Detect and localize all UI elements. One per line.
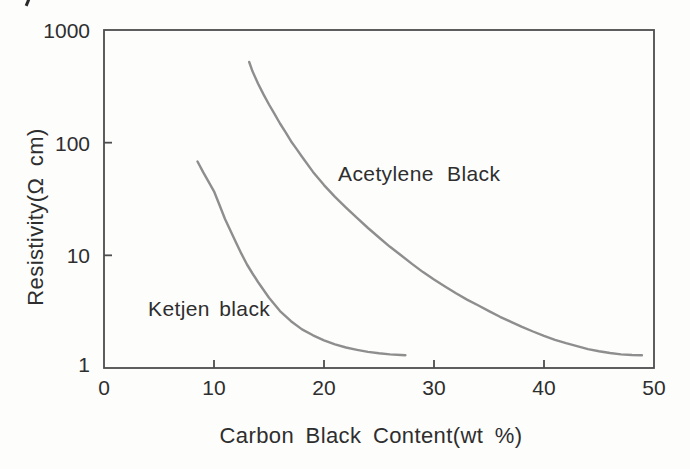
x-tick-label: 0 [98, 377, 110, 398]
x-tick-label: 40 [532, 377, 555, 398]
x-tick-label: 30 [422, 377, 445, 398]
figure: Resistivity(Ω cm) Carbon Black Content(w… [0, 0, 690, 469]
ketjen-black-curve [198, 162, 406, 356]
x-tick-label: 10 [202, 377, 225, 398]
x-tick-label: 50 [642, 377, 665, 398]
y-tick-label: 10 [14, 245, 90, 266]
series-label-acetylene-black: Acetylene Black [338, 162, 500, 186]
x-tick-label: 20 [312, 377, 335, 398]
y-tick-label: 1 [14, 354, 90, 375]
x-axis-title: Carbon Black Content(wt %) [220, 423, 523, 449]
acetylene-black-curve [249, 62, 642, 355]
y-tick-label: 100 [14, 132, 90, 153]
y-axis-title: Resistivity(Ω cm) [23, 128, 49, 305]
y-tick-label: 1000 [14, 20, 90, 41]
series-label-ketjen-black: Ketjen black [148, 297, 270, 321]
